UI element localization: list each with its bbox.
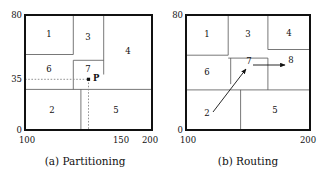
panel-a-caption: (a) Partitioning <box>45 155 126 167</box>
x-axis-max-label: 200 <box>300 135 316 145</box>
y-axis-min-label: 0 <box>17 125 22 135</box>
x-axis-min-label: 100 <box>180 135 196 145</box>
region-label-4: 4 <box>125 46 130 56</box>
region-label-3: 3 <box>85 32 90 42</box>
region-label-4: 4 <box>286 28 291 38</box>
figure-partitioning-routing: P 1 3 4 6 7 2 5 80 35 0 100 150 200 <box>0 0 325 179</box>
region-label-6: 6 <box>46 64 51 74</box>
region-label-8: 8 <box>288 55 293 65</box>
x-axis-min-label: 100 <box>19 135 35 145</box>
region-label-3: 3 <box>245 29 250 39</box>
point-guides <box>25 79 89 130</box>
panel-b-plot: 1 3 4 6 7 8 2 5 80 0 100 200 (b) Routing <box>172 10 316 167</box>
region-label-7: 7 <box>246 56 251 66</box>
region-label-6: 6 <box>204 67 209 77</box>
y-axis-max-label: 80 <box>11 10 22 20</box>
region-label-5: 5 <box>113 105 118 115</box>
panel-routing: 1 3 4 6 7 8 2 5 80 0 100 200 (b) Routing <box>163 0 325 179</box>
panel-b-canvas: 1 3 4 6 7 8 2 5 80 0 100 200 (b) Routing <box>163 0 325 179</box>
region-label-5: 5 <box>272 105 277 115</box>
region-label-7: 7 <box>85 64 90 74</box>
panel-b-caption: (b) Routing <box>218 155 279 167</box>
region-label-2: 2 <box>49 105 54 115</box>
x-axis-mid-label: 150 <box>113 135 129 145</box>
y-axis-mid-label: 35 <box>11 74 22 84</box>
panel-partitioning: P 1 3 4 6 7 2 5 80 35 0 100 150 200 <box>0 0 163 179</box>
arrow-2-to-7 <box>213 69 246 112</box>
region-label-1: 1 <box>204 29 209 39</box>
region-label-1: 1 <box>46 29 51 39</box>
point-p-label: P <box>93 73 100 83</box>
region-label-2: 2 <box>204 108 209 118</box>
point-p-marker <box>87 78 90 81</box>
y-axis-max-label: 80 <box>172 10 183 20</box>
y-axis-min-label: 0 <box>178 125 183 135</box>
panel-a-plot: P 1 3 4 6 7 2 5 80 35 0 100 150 200 <box>11 10 158 167</box>
x-axis-max-label: 200 <box>142 135 158 145</box>
panel-a-canvas: P 1 3 4 6 7 2 5 80 35 0 100 150 200 <box>0 0 163 179</box>
